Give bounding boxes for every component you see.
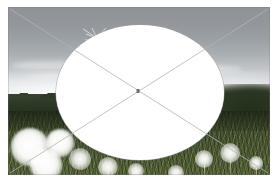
dandelion-meadow-photo[interactable] [8, 7, 270, 175]
center-marker[interactable] [137, 89, 140, 93]
white-ellipse-overlay[interactable] [56, 25, 224, 160]
screenshot-canvas [0, 0, 278, 189]
